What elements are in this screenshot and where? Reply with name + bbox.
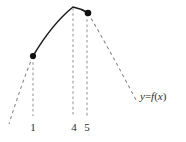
point-marker-at-1	[30, 53, 36, 59]
dashed-right-tail-curve	[88, 13, 136, 100]
tick-label-4: 4	[67, 121, 81, 133]
curve-label-close-paren: )	[163, 90, 167, 102]
solid-parabola-curve	[33, 7, 88, 56]
tick-label-5: 5	[80, 121, 94, 133]
tick-label-1: 1	[26, 121, 40, 133]
function-graph-figure: 1 4 5 y=f(x)	[0, 0, 186, 142]
point-marker-at-5	[85, 10, 92, 17]
curve-equation-label: y=f(x)	[140, 90, 166, 102]
dashed-left-tail-curve	[9, 56, 33, 124]
